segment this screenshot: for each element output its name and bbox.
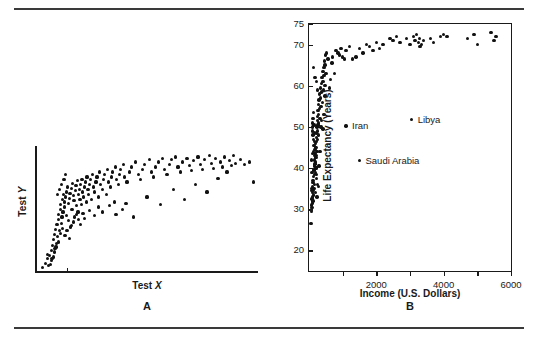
panel-b-letter: B (308, 300, 512, 312)
y-tick-mark (308, 168, 313, 169)
x-tick-mark (343, 271, 344, 276)
data-point (395, 35, 398, 38)
data-point (314, 146, 317, 149)
y-tick-label: 50 (278, 122, 304, 132)
data-point (316, 88, 319, 91)
data-point (445, 35, 448, 38)
annotation-label: Saudi Arabia (366, 155, 420, 166)
data-point (309, 222, 312, 225)
data-point (317, 133, 320, 136)
data-point (326, 57, 329, 60)
data-point (358, 47, 361, 50)
data-point (331, 55, 334, 58)
x-tick-mark (410, 271, 411, 276)
y-tick-label: 60 (278, 81, 304, 91)
data-point (333, 72, 336, 75)
data-point (330, 61, 333, 64)
data-point (317, 185, 320, 188)
data-point (313, 76, 316, 79)
data-point (317, 113, 320, 116)
y-tick-mark (308, 45, 313, 46)
data-point (408, 43, 411, 46)
data-point (314, 191, 317, 194)
data-point (314, 156, 317, 159)
data-point (381, 43, 384, 46)
data-point (405, 37, 408, 40)
y-tick-label: 30 (278, 204, 304, 214)
y-tick-label: 70 (278, 40, 304, 50)
data-point (375, 41, 378, 44)
data-point (378, 47, 381, 50)
data-point (368, 45, 371, 48)
data-point (312, 111, 315, 114)
data-point (391, 39, 394, 42)
data-point (371, 49, 374, 52)
data-point (361, 51, 364, 54)
data-point (311, 117, 314, 120)
data-point (489, 31, 492, 34)
data-point (315, 173, 318, 176)
data-point (311, 199, 314, 202)
data-point (310, 171, 313, 174)
data-point (415, 33, 418, 36)
data-point (323, 63, 326, 66)
panel-b-x-axis-label: Income (U.S. Dollars) (308, 288, 512, 299)
data-point (316, 129, 319, 132)
y-tick-label: 75 (278, 19, 304, 29)
annotation-point (344, 124, 347, 127)
annotation-label: Libya (418, 114, 441, 125)
panel-b-y-axis-label: Life Expectancy (Years) (322, 71, 333, 221)
x-tick-mark (444, 271, 445, 276)
data-point (316, 138, 319, 141)
data-point (315, 195, 318, 198)
data-point (339, 47, 342, 50)
data-point (422, 39, 425, 42)
y-tick-mark (308, 250, 313, 251)
data-point (312, 66, 315, 69)
x-tick-mark (376, 271, 377, 276)
data-point (315, 177, 318, 180)
data-point (314, 160, 317, 163)
data-point (348, 45, 351, 48)
panel-b: 20304050607075200040006000 IranLibyaSaud… (0, 0, 534, 341)
data-point (310, 158, 313, 161)
panel-b-plot-area (309, 24, 511, 271)
data-point (476, 43, 479, 46)
data-point (472, 33, 475, 36)
y-tick-mark (308, 24, 313, 25)
data-point (429, 37, 432, 40)
y-tick-label: 20 (278, 245, 304, 255)
data-point (313, 131, 316, 134)
data-point (420, 43, 423, 46)
data-point (311, 179, 314, 182)
y-tick-mark (308, 86, 313, 87)
figure-root: Test Y Test X A 203040506070752000400060… (0, 0, 534, 341)
data-point (325, 51, 328, 54)
y-tick-label: 40 (278, 163, 304, 173)
data-point (494, 35, 497, 38)
data-point (317, 164, 320, 167)
data-point (354, 55, 357, 58)
x-tick-mark (477, 271, 478, 276)
data-point (466, 37, 469, 40)
data-point (492, 39, 495, 42)
y-tick-mark (308, 127, 313, 128)
data-point (398, 41, 401, 44)
data-point (418, 37, 421, 40)
annotation-label: Iran (352, 120, 368, 131)
data-point (343, 57, 346, 60)
data-point (432, 41, 435, 44)
y-tick-mark (308, 209, 313, 210)
data-point (315, 80, 318, 83)
data-point (344, 49, 347, 52)
x-tick-mark (511, 271, 512, 276)
